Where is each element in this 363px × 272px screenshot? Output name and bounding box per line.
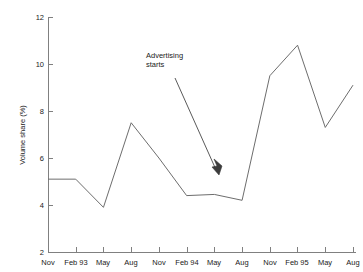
x-tick-label-5: Feb 94 <box>175 258 198 267</box>
y-axis-tick-labels: 12 10 8 6 4 2 <box>36 13 44 257</box>
series-line-volume-share <box>48 45 353 207</box>
x-tick-label-11: Aug <box>346 258 359 267</box>
chart-container: 12 10 8 6 4 2 Volume share (%) Nov <box>0 0 363 272</box>
annotation-arrow-head <box>212 159 222 175</box>
annotation-label: Advertising starts <box>146 51 183 69</box>
x-tick-label-3: Aug <box>124 258 137 267</box>
x-axis-ticks <box>48 247 353 252</box>
x-tick-label-9: Feb 95 <box>285 258 308 267</box>
y-axis-ticks <box>48 17 53 252</box>
x-tick-label-0: Nov <box>41 258 55 267</box>
y-tick-label-10: 10 <box>36 60 44 69</box>
y-tick-label-2: 2 <box>40 248 44 257</box>
y-tick-label-6: 6 <box>40 154 44 163</box>
x-tick-label-7: Aug <box>235 258 248 267</box>
y-tick-label-4: 4 <box>40 201 44 210</box>
x-tick-label-1: Feb 93 <box>64 258 87 267</box>
x-tick-label-2: May <box>96 258 110 267</box>
x-tick-label-8: Nov <box>263 258 277 267</box>
y-axis-title: Volume share (%) <box>18 105 27 165</box>
annotation-text-line-2: starts <box>146 60 165 69</box>
line-chart: 12 10 8 6 4 2 Volume share (%) Nov <box>0 0 363 272</box>
annotation-arrow <box>175 78 222 175</box>
x-tick-label-10: May <box>318 258 332 267</box>
y-tick-label-12: 12 <box>36 13 44 22</box>
annotation-arrow-shaft <box>175 78 217 172</box>
x-axis-tick-labels: Nov Feb 93 May Aug Nov Feb 94 May Aug No… <box>41 258 359 267</box>
annotation-text-line-1: Advertising <box>146 51 183 60</box>
x-tick-label-6: May <box>207 258 221 267</box>
y-tick-label-8: 8 <box>40 107 44 116</box>
x-tick-label-4: Nov <box>152 258 166 267</box>
